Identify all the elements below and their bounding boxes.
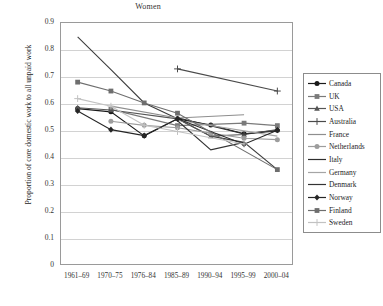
y-axis-tick-label: 0.1 xyxy=(26,233,54,242)
chart-legend: CanadaUKUSAAustraliaFranceNetherlandsIta… xyxy=(303,73,381,233)
legend-item-netherlands[interactable]: Netherlands xyxy=(307,140,378,153)
y-axis-tick-label: 0.3 xyxy=(26,179,54,188)
legend-label: USA xyxy=(327,104,344,113)
data-point xyxy=(242,121,247,126)
legend-label: Sweden xyxy=(327,218,352,227)
legend-marker-icon xyxy=(307,217,327,228)
legend-marker-icon xyxy=(307,78,327,89)
legend-label: Canada xyxy=(327,79,351,88)
legend-item-usa[interactable]: USA xyxy=(307,102,378,115)
legend-label: France xyxy=(327,130,349,139)
chart-root: Women Proportion of core domestic work t… xyxy=(0,0,383,306)
series-line-extra xyxy=(78,37,278,170)
data-point xyxy=(75,80,80,85)
legend-marker-icon xyxy=(307,205,327,216)
data-point xyxy=(141,132,147,138)
legend-label: UK xyxy=(327,92,340,101)
x-axis-tick-label: 2000–04 xyxy=(253,272,299,280)
data-point xyxy=(275,167,280,172)
legend-marker-icon xyxy=(307,129,327,140)
y-axis-tick-label: 0.9 xyxy=(26,17,54,26)
legend-item-uk[interactable]: UK xyxy=(307,90,378,103)
series-line-australia xyxy=(178,69,278,91)
data-point xyxy=(108,119,113,124)
data-point xyxy=(275,127,281,133)
legend-label: Norway xyxy=(327,193,353,202)
legend-label: Italy xyxy=(327,155,343,164)
legend-item-finland[interactable]: Finland xyxy=(307,204,378,217)
legend-label: Denmark xyxy=(327,180,357,189)
series-lines xyxy=(61,23,294,266)
data-point xyxy=(109,89,114,94)
legend-marker-icon xyxy=(307,103,327,114)
legend-marker-icon xyxy=(307,91,327,102)
legend-marker-icon xyxy=(307,141,327,152)
y-axis-tick-label: 0.2 xyxy=(26,206,54,215)
data-point xyxy=(108,127,114,133)
legend-marker-icon xyxy=(307,179,327,190)
chart-title: Women xyxy=(0,2,296,11)
data-point xyxy=(175,111,180,116)
y-axis-tick-label: 0.7 xyxy=(26,71,54,80)
legend-label: Finland xyxy=(327,206,352,215)
legend-marker-icon xyxy=(307,167,327,178)
legend-item-canada[interactable]: Canada xyxy=(307,77,378,90)
y-axis-tick-label: 0.5 xyxy=(26,125,54,134)
y-axis-tick-label: 0 xyxy=(26,260,54,269)
data-point xyxy=(74,95,81,102)
legend-marker-icon xyxy=(307,154,327,165)
y-axis-tick-label: 0.4 xyxy=(26,152,54,161)
data-point xyxy=(142,101,147,106)
data-point xyxy=(275,137,280,142)
legend-item-germany[interactable]: Germany xyxy=(307,166,378,179)
legend-marker-icon xyxy=(307,116,327,127)
legend-item-norway[interactable]: Norway xyxy=(307,191,378,204)
legend-item-italy[interactable]: Italy xyxy=(307,153,378,166)
data-point xyxy=(174,128,181,135)
legend-item-sweden[interactable]: Sweden xyxy=(307,217,378,230)
legend-label: Netherlands xyxy=(327,142,365,151)
legend-item-denmark[interactable]: Denmark xyxy=(307,179,378,192)
legend-item-australia[interactable]: Australia xyxy=(307,115,378,128)
legend-label: Germany xyxy=(327,168,357,177)
data-point xyxy=(242,136,247,141)
y-axis-tick-label: 0.8 xyxy=(26,44,54,53)
data-point xyxy=(174,66,181,73)
legend-marker-icon xyxy=(307,192,327,203)
legend-label: Australia xyxy=(327,117,356,126)
data-point xyxy=(274,88,281,95)
data-point xyxy=(141,122,148,129)
legend-item-france[interactable]: France xyxy=(307,128,378,141)
plot-area xyxy=(60,22,293,265)
y-axis-tick-label: 0.6 xyxy=(26,98,54,107)
